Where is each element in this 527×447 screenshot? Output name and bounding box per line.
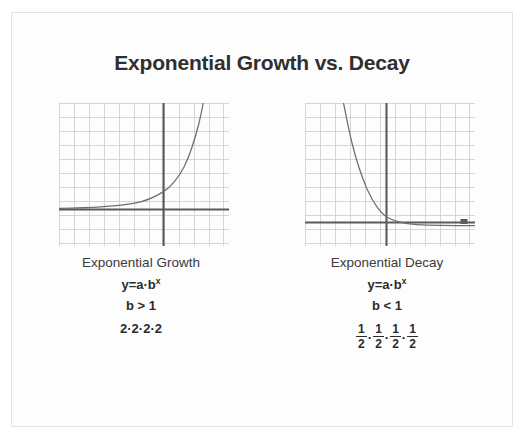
formula-block-decay: y=a·bx b < 1 12·12·12·12 [294,274,480,350]
page-title: Exponential Growth vs. Decay [12,51,512,75]
fraction-numerator: 1 [390,323,401,337]
fraction-denominator: 2 [407,337,418,350]
exponential-decay-graph [305,103,475,246]
expansion-decay: 12·12·12·12 [294,318,480,350]
fraction-denominator: 2 [356,337,367,350]
slide-card: Exponential Growth vs. Decay [11,12,513,427]
formula-exponent-growth: x [156,276,161,286]
fraction-sequence: 12·12·12·12 [356,323,418,350]
condition-growth: b > 1 [48,295,234,316]
formula-base-growth: y=a·b [121,277,155,292]
panel-caption-growth: Exponential Growth [48,255,234,270]
fraction-numerator: 1 [356,323,367,337]
fraction-denominator: 2 [390,337,401,350]
formula-base-decay: y=a·b [367,277,401,292]
fraction: 12 [407,323,418,350]
fraction-numerator: 1 [407,323,418,337]
expansion-growth: 2·2·2·2 [48,318,234,339]
formula-growth: y=a·bx [48,274,234,295]
fraction-denominator: 2 [373,337,384,350]
fraction-separator: · [367,327,373,348]
formula-exponent-decay: x [402,276,407,286]
panel-exponential-decay: Exponential Decay y=a·bx b < 1 12·12·12·… [294,103,480,350]
formula-decay: y=a·bx [294,274,480,295]
grid-lines [59,103,229,246]
condition-decay: b < 1 [294,295,480,316]
x-axis-arrow-icon [461,219,468,224]
growth-curve [59,103,203,208]
panel-caption-decay: Exponential Decay [294,255,480,270]
fraction: 12 [373,323,384,350]
fraction-numerator: 1 [373,323,384,337]
fraction-separator: · [401,327,407,348]
exponential-growth-graph [59,103,229,246]
fraction: 12 [390,323,401,350]
formula-block-growth: y=a·bx b > 1 2·2·2·2 [48,274,234,339]
fraction-separator: · [384,327,390,348]
exponential-decay-svg [305,103,475,246]
fraction: 12 [356,323,367,350]
grid-lines [305,103,475,246]
exponential-growth-svg [59,103,229,246]
panel-exponential-growth: Exponential Growth y=a·bx b > 1 2·2·2·2 [48,103,234,339]
